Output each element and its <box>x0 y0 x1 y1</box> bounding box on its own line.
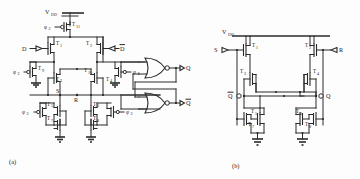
transistor-T4-sub: 4 <box>110 78 112 83</box>
transistor-b-T2 <box>310 36 337 125</box>
output-q-bar-label: Q <box>186 99 191 106</box>
circuit-figure: V DD T 11 φ 2 <box>0 0 360 179</box>
clock-phi2-left-upper-sub: 2 <box>18 71 20 76</box>
output-q-b-label: Q <box>326 92 331 99</box>
circuit-b: V DD S T 1 <box>214 28 344 170</box>
transistor-b-T3-sub: 3 <box>244 71 246 76</box>
junction-dot <box>47 94 49 96</box>
clock-phi2-right-lower-sub: 2 <box>131 111 133 116</box>
transistor-T8 <box>85 119 97 142</box>
set-input-label: S <box>214 46 218 53</box>
transistor-T7-sub: 7 <box>51 118 53 123</box>
output-q-b <box>300 92 323 108</box>
caption-b: (b) <box>232 162 239 170</box>
transistor-b-T8-sub: 8 <box>309 124 311 129</box>
vdd-label-b: V <box>222 28 227 35</box>
output-q-bar-b <box>237 94 260 108</box>
clock-phi2-left-lower-label: φ <box>22 109 25 115</box>
caption-a: (a) <box>9 158 16 166</box>
reset-input-label: R <box>339 46 344 53</box>
data-input-label: D <box>22 45 27 52</box>
transistor-b-T4-sub: 4 <box>317 71 319 76</box>
transistor-b-T5-sub: 5 <box>255 111 257 116</box>
output-q-bar-b-label: Q <box>228 92 233 99</box>
transistor-b-T1-sub: 1 <box>256 45 258 50</box>
clock-phi2-top-label: φ <box>44 24 47 30</box>
transistor-T1-sub: 1 <box>60 43 62 48</box>
transistor-T9-sub: 9 <box>42 68 44 73</box>
node-s-label: S <box>56 87 60 94</box>
transistor-T10-sub: 10 <box>88 70 92 75</box>
clock-phi2-left-lower-sub: 2 <box>27 111 29 116</box>
transistor-T8-sub: 8 <box>97 118 99 123</box>
output-q-label: Q <box>186 64 191 71</box>
circuit-a: V DD T 11 φ 2 <box>9 8 191 167</box>
vdd-sublabel-a: DD <box>51 12 57 17</box>
transistor-T2 <box>97 37 119 62</box>
transistor-b-T1 <box>222 36 250 125</box>
transistor-T6-sub: 6 <box>97 103 99 108</box>
transistor-T1 <box>30 37 54 62</box>
junction-dot <box>69 36 71 38</box>
transistor-T5-sub: 5 <box>51 103 53 108</box>
data-bar-input-label: D <box>120 45 125 52</box>
transistor-b-T2-sub: 2 <box>309 45 311 50</box>
nor-gate-lower <box>139 93 185 113</box>
nor-gate-upper <box>139 58 185 78</box>
svg-text:D: D <box>120 45 125 52</box>
clock-phi2-left-upper-label: φ <box>13 69 16 75</box>
transistor-T3-sub: 3 <box>60 78 62 83</box>
transistor-T2-sub: 2 <box>90 43 92 48</box>
junction-dot <box>102 94 104 96</box>
svg-text:Q: Q <box>228 92 233 99</box>
transistor-T11-sub: 11 <box>76 24 80 29</box>
transistor-T4 <box>110 62 131 87</box>
transistor-T3 <box>48 62 77 95</box>
svg-text:Q: Q <box>186 99 191 106</box>
cross-couple-wires-b <box>256 75 304 109</box>
clock-phi2-right-lower-label: φ <box>126 109 129 115</box>
vdd-sublabel-b: DD <box>228 32 234 37</box>
junction-dot <box>76 68 78 70</box>
transistor-b-T6-sub: 6 <box>300 111 302 116</box>
node-r-label: R <box>74 96 79 103</box>
transistor-phi2-right-lower <box>97 103 124 125</box>
clock-phi2-top-sub: 2 <box>49 26 51 31</box>
transistor-T11 <box>55 22 70 37</box>
vdd-label-a: V <box>45 8 50 15</box>
transistor-b-T7-sub: 7 <box>252 124 254 129</box>
